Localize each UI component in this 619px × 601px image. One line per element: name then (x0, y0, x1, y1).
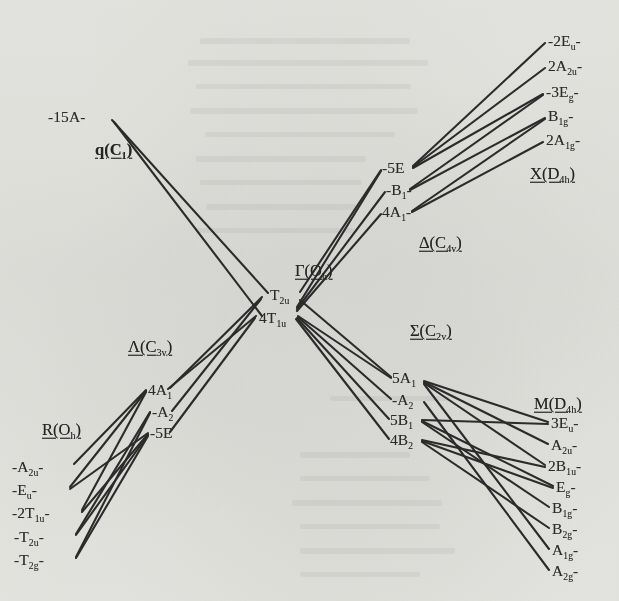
correlation-line (114, 122, 262, 316)
level-term: -A (12, 458, 29, 475)
level-subscript: 2g (29, 560, 39, 571)
level-subscript: 2g (563, 571, 573, 582)
level-label-l-A2: -A2 (152, 404, 173, 420)
level-label-d-4A1: 4A1- (382, 204, 411, 220)
correlation-line (112, 120, 268, 293)
level-tick: - (575, 131, 580, 148)
header-point-group-subscript: 4v (446, 243, 456, 254)
correlation-line (74, 390, 146, 464)
level-label-g-4T1u: 4T1u (259, 310, 286, 326)
header-point-group-subscript: 4h (559, 174, 569, 185)
column-header-sigma: Σ(C2v) (410, 323, 452, 340)
level-label-m-3Eu: 3Eu- (551, 415, 579, 431)
level-term: E (556, 478, 566, 495)
level-label-r-2T1u: -2T1u- (12, 505, 50, 521)
bleed-through-mark (205, 132, 395, 137)
column-header-r: R(Oh) (42, 422, 81, 439)
level-label-r-T2u: -T2u- (14, 529, 44, 545)
correlation-line (70, 433, 148, 489)
level-label-s-5B1: 5B1 (390, 412, 413, 428)
level-term: T (270, 286, 280, 303)
bleed-through-mark (300, 524, 440, 529)
level-term: -A (152, 403, 169, 420)
level-subscript: 1g (558, 116, 568, 127)
level-label-m-B1g: B1g- (552, 500, 578, 516)
header-paren-close: ) (127, 140, 133, 159)
correlation-line (172, 299, 261, 411)
correlation-line (413, 94, 543, 168)
column-header-lambda: Λ(C3v) (128, 339, 172, 356)
level-subscript: 1u (276, 318, 286, 329)
paper-texture (0, 0, 619, 601)
level-term: -A (392, 391, 409, 408)
column-header-x: X(D4h) (530, 166, 575, 183)
level-label-m-A2g: A2g- (552, 563, 578, 579)
correlation-line (76, 413, 150, 557)
correlation-line (300, 300, 391, 377)
header-paren-close: ) (167, 337, 173, 356)
level-term: B (552, 499, 562, 516)
level-term: 2A (546, 131, 565, 148)
level-tick: - (573, 541, 578, 558)
level-term: 2B (548, 457, 566, 474)
bleed-through-mark (300, 452, 410, 458)
correlation-line (412, 119, 545, 211)
level-tick: - (568, 107, 573, 124)
level-label-l-5E: -5E (150, 425, 173, 441)
correlation-line (168, 316, 256, 389)
bleed-through-mark (292, 500, 442, 506)
level-term: 4T (259, 309, 276, 326)
bleed-through-mark (330, 396, 450, 401)
bleed-through-mark (200, 38, 410, 44)
header-symmetry-point: Δ(C (419, 233, 446, 252)
level-label-x-2A1g: 2A1g- (546, 132, 580, 148)
correlation-line (424, 384, 549, 549)
level-subscript: 1 (167, 390, 172, 401)
bleed-through-mark (300, 476, 430, 481)
level-tick: - (573, 414, 578, 431)
correlation-line (422, 441, 553, 488)
correlation-line (298, 316, 391, 378)
column-header-gamma: Γ(Oh) (295, 263, 333, 280)
correlation-line (413, 43, 545, 166)
header-symmetry-point: q(C (95, 140, 122, 159)
level-tick: - (32, 481, 37, 498)
level-tick: - (406, 203, 411, 220)
level-term: A (552, 562, 563, 579)
level-tick: - (576, 457, 581, 474)
header-symmetry-point: Γ(O (295, 261, 322, 280)
header-paren-close: ) (570, 164, 576, 183)
level-label-x-2A2u: 2A2u- (548, 58, 582, 74)
level-subscript: 1u (35, 513, 45, 524)
level-subscript: 2u (562, 445, 572, 456)
level-label-d-B1: -B1- (386, 182, 412, 198)
correlation-line (410, 118, 545, 190)
level-term: A (552, 541, 563, 558)
level-term: 2A (548, 57, 567, 74)
level-subscript: 2 (409, 400, 414, 411)
correlation-line (410, 95, 543, 189)
level-term: 4B (390, 431, 408, 448)
level-label-x-2Eu: -2Eu- (548, 33, 581, 49)
level-subscript: 1g (563, 550, 573, 561)
correlation-line (422, 422, 549, 507)
header-paren-close: ) (327, 261, 333, 280)
level-subscript: 2u (29, 467, 39, 478)
level-subscript: 1 (411, 378, 416, 389)
correlation-line (82, 392, 146, 510)
level-tick: - (44, 504, 49, 521)
correlation-line (413, 68, 545, 167)
level-term: -2T (12, 504, 35, 521)
header-symmetry-point: Σ(C (410, 321, 436, 340)
header-paren-close: ) (76, 420, 82, 439)
level-label-m-A2u: A2u- (551, 437, 577, 453)
level-tick: - (38, 458, 43, 475)
bleed-through-mark (190, 108, 418, 114)
correlation-line (297, 171, 381, 307)
level-term: 3E (551, 414, 568, 431)
level-term: -E (12, 481, 27, 498)
correlation-line (297, 192, 385, 309)
level-term: -B (386, 181, 402, 198)
level-term: A (551, 436, 562, 453)
correlation-line (70, 391, 146, 487)
